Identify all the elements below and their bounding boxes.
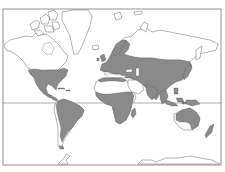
range-caribbean xyxy=(58,88,70,91)
south-america xyxy=(54,99,84,149)
antarctica xyxy=(58,154,220,164)
range-south-america xyxy=(56,99,84,142)
antarctic-peninsula-outline xyxy=(58,154,70,164)
antarctica-outline xyxy=(138,156,220,164)
caspian-sea xyxy=(136,68,139,76)
arctic-islands-outline xyxy=(30,10,60,36)
canada-alaska-outline xyxy=(4,33,68,71)
range-north-america xyxy=(28,68,68,98)
franz-josef-outline xyxy=(134,11,142,15)
oceania xyxy=(166,88,214,138)
iceland-outline xyxy=(92,45,99,50)
range-sub-saharan-africa xyxy=(96,92,134,124)
range-new-guinea xyxy=(186,100,200,106)
greenland-outline xyxy=(62,10,92,54)
world-distribution-map xyxy=(0,0,225,172)
range-tierra-del-fuego xyxy=(59,146,64,149)
svalbard-outline xyxy=(114,12,122,20)
range-british-isles xyxy=(97,54,106,62)
africa-middle-east xyxy=(94,78,144,124)
north-america xyxy=(4,10,99,101)
range-new-zealand xyxy=(205,124,214,138)
range-madagascar xyxy=(131,108,136,118)
